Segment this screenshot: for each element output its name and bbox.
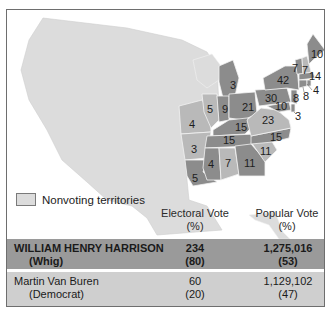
label-louisiana: 5 <box>192 172 198 184</box>
label-mississippi: 4 <box>208 158 214 170</box>
electoral-count: 234 <box>165 242 225 255</box>
label-south-carolina: 11 <box>260 145 271 157</box>
electoral-pct: (80) <box>165 255 225 268</box>
candidate-party: (Whig) <box>29 255 63 268</box>
candidate-name: Martin Van Buren <box>14 275 99 288</box>
candidate-name: WILLIAM HENRY HARRISON <box>14 242 164 255</box>
electoral-vote-header: Electoral Vote (%) <box>155 207 235 233</box>
candidate-party: (Democrat) <box>29 288 84 301</box>
popular-pct: (53) <box>253 255 323 268</box>
electoral-vote-cell: 60 (20) <box>165 275 225 301</box>
electoral-pct: (20) <box>165 288 225 301</box>
label-missouri: 4 <box>189 118 195 130</box>
label-maine: 10 <box>311 48 323 60</box>
label-illinois: 5 <box>207 103 213 115</box>
label-virginia: 23 <box>262 114 274 126</box>
label-ohio: 21 <box>242 101 254 113</box>
label-vermont: 7 <box>292 62 298 74</box>
label-maryland: 10 <box>275 100 287 112</box>
label-new-jersey: 8 <box>293 92 299 104</box>
popular-vote-unit: (%) <box>249 220 325 233</box>
electoral-vote-label: Electoral Vote <box>155 207 235 220</box>
popular-vote-cell: 1,129,102 (47) <box>253 275 323 301</box>
popular-vote-label: Popular Vote <box>249 207 325 220</box>
label-massachusetts: 14 <box>309 70 321 82</box>
label-delaware: 3 <box>295 110 301 122</box>
popular-count: 1,129,102 <box>253 275 323 288</box>
popular-pct: (47) <box>253 288 323 301</box>
label-michigan: 3 <box>230 79 236 91</box>
popular-vote-header: Popular Vote (%) <box>249 207 325 233</box>
table-row-harrison: WILLIAM HENRY HARRISON (Whig) 234 (80) 1… <box>7 239 325 269</box>
label-kentucky: 15 <box>235 121 247 133</box>
election-map-figure: 10 7 7 14 4 8 8 42 30 10 3 23 3 21 9 5 4… <box>6 9 325 307</box>
legend-label: Nonvoting territories <box>42 194 145 206</box>
label-tennessee: 15 <box>223 134 235 146</box>
popular-count: 1,275,016 <box>253 242 323 255</box>
label-arkansas: 3 <box>191 143 197 155</box>
legend: Nonvoting territories <box>16 193 145 206</box>
state-connecticut <box>299 80 307 88</box>
label-indiana: 9 <box>222 103 228 115</box>
label-new-hampshire: 7 <box>302 64 308 76</box>
label-north-carolina: 15 <box>270 131 282 143</box>
electoral-vote-cell: 234 (80) <box>165 242 225 268</box>
popular-vote-cell: 1,275,016 (53) <box>253 242 323 268</box>
electoral-vote-unit: (%) <box>155 220 235 233</box>
label-georgia: 11 <box>244 157 255 169</box>
label-alabama: 7 <box>225 157 231 169</box>
label-new-york: 42 <box>277 74 289 86</box>
nonvoting-swatch <box>16 193 36 206</box>
electoral-count: 60 <box>165 275 225 288</box>
label-rhode-island: 4 <box>313 84 319 96</box>
table-row-van-buren: Martin Van Buren (Democrat) 60 (20) 1,12… <box>7 272 325 307</box>
